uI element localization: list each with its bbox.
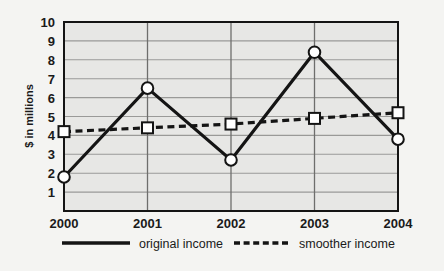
y-axis-title: $ in millions — [23, 84, 35, 148]
x-tick-label: 2000 — [50, 216, 79, 231]
legend-label-original-income: original income — [139, 237, 223, 251]
data-point-marker-square — [226, 119, 237, 130]
y-tick-label: 8 — [48, 53, 55, 68]
y-tick-label: 6 — [48, 91, 55, 106]
y-tick-label: 1 — [48, 185, 55, 200]
y-tick-label: 2 — [48, 166, 55, 181]
y-tick-label: 3 — [48, 147, 55, 162]
y-tick-label: 4 — [48, 128, 56, 143]
x-tick-label: 2001 — [133, 216, 162, 231]
legend-label-smoother-income: smoother income — [299, 237, 395, 251]
data-point-marker-square — [59, 126, 70, 137]
data-point-marker-circle — [309, 46, 321, 58]
x-tick-label: 2003 — [300, 216, 329, 231]
chart-figure: 12345678910 20002001200220032004 $ in mi… — [0, 0, 444, 271]
data-point-marker-circle — [58, 171, 70, 183]
y-tick-label: 9 — [48, 34, 55, 49]
data-point-marker-circle — [225, 154, 237, 166]
x-tick-label: 2004 — [384, 216, 414, 231]
y-tick-label: 5 — [48, 110, 55, 125]
y-tick-label: 10 — [41, 15, 55, 30]
line-chart: 12345678910 20002001200220032004 $ in mi… — [0, 0, 444, 271]
data-point-marker-square — [393, 107, 404, 118]
data-point-marker-square — [309, 113, 320, 124]
data-point-marker-circle — [142, 82, 154, 94]
data-point-marker-circle — [392, 133, 404, 145]
data-point-marker-square — [142, 122, 153, 133]
y-tick-label: 7 — [48, 72, 55, 87]
x-tick-label: 2002 — [217, 216, 246, 231]
